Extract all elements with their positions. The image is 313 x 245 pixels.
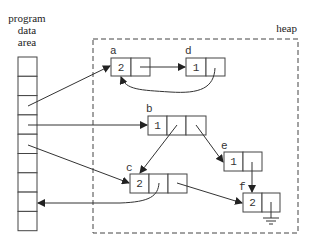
node-c-label: c [126, 162, 133, 174]
program-cell-2 [18, 76, 37, 95]
node-b: b 1 [146, 103, 206, 135]
node-b-count: 1 [154, 120, 161, 132]
program-cell-1 [18, 57, 37, 76]
program-label-line3: area [18, 36, 36, 48]
program-data-area [18, 57, 37, 231]
program-label-line1: program [8, 12, 46, 24]
node-f: f 2 [239, 181, 280, 224]
node-f-count: 2 [249, 197, 256, 209]
program-cell-5 [18, 134, 37, 153]
node-d-count: 1 [193, 62, 200, 74]
edge-b-to-e [196, 125, 223, 162]
node-a-label: a [110, 45, 117, 57]
node-b-label: b [146, 103, 153, 115]
program-cell-7 [18, 173, 37, 192]
node-e-count: 1 [230, 156, 237, 168]
node-a: a 2 [110, 45, 150, 76]
node-d-label: d [185, 45, 192, 57]
node-d: d 1 [185, 45, 225, 76]
node-e: e 1 [221, 140, 262, 171]
node-a-count: 2 [118, 62, 125, 74]
reference-count-diagram: program data area heap a 2 d 1 b 1 [0, 0, 313, 245]
program-cell-6 [18, 154, 37, 173]
program-data-area-label: program data area [8, 12, 46, 48]
program-label-line2: data [18, 24, 36, 36]
program-cell-9 [18, 211, 37, 230]
node-e-label: e [221, 140, 228, 152]
node-f-label: f [239, 181, 246, 193]
edge-cell5-to-c [28, 145, 129, 183]
node-d-pointer-cell [206, 58, 225, 76]
heap-label: heap [276, 22, 297, 34]
node-c: c 2 [126, 162, 187, 193]
node-c-count: 2 [136, 178, 143, 190]
edge-cell3-to-a [28, 66, 110, 106]
program-cell-3 [18, 96, 37, 115]
program-cell-8 [18, 192, 37, 211]
